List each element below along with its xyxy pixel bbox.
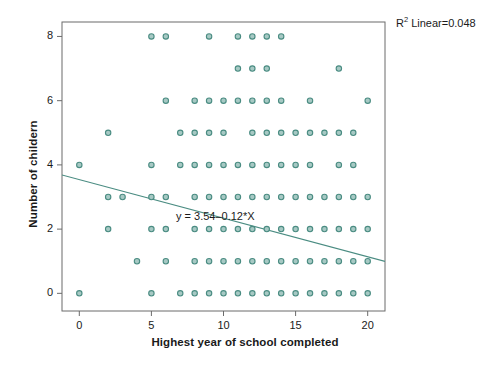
data-point [192,98,197,103]
data-point [293,162,298,167]
data-point [365,226,370,231]
x-axis-title: Highest year of school completed [0,336,490,348]
data-point [192,194,197,199]
regression-equation-label: y = 3.54–0.12*X [176,210,255,222]
data-point [365,98,370,103]
r-squared-annotation: R2 Linear=0.048 [396,17,476,29]
plot-canvas [0,0,490,366]
data-point [250,130,255,135]
data-point [192,130,197,135]
data-point [178,130,183,135]
data-point [365,291,370,296]
data-point [149,34,154,39]
data-points [77,34,371,296]
scatter-plot-figure: 05101520 02468 y = 3.54–0.12*X R2 Linear… [0,0,490,366]
data-point [307,130,312,135]
data-point [264,130,269,135]
data-point [250,34,255,39]
data-point [278,34,283,39]
data-point [293,130,298,135]
data-point [351,291,356,296]
x-tick-label: 0 [64,319,94,331]
data-point [192,226,197,231]
data-point [149,226,154,231]
data-point [264,194,269,199]
data-point [206,130,211,135]
data-point [307,259,312,264]
data-point [264,66,269,71]
data-point [250,98,255,103]
data-point [235,226,240,231]
data-point [250,291,255,296]
data-point [250,66,255,71]
data-point [77,291,82,296]
data-point [307,226,312,231]
data-point [250,259,255,264]
data-point [77,162,82,167]
data-point [192,259,197,264]
y-axis-title: Number of childern [27,79,39,269]
data-point [351,226,356,231]
data-point [336,66,341,71]
data-point [278,98,283,103]
data-point [163,34,168,39]
data-point [105,226,110,231]
data-point [163,98,168,103]
r-squared-letter: R [396,17,404,29]
x-tick-label: 10 [209,319,239,331]
data-point [307,194,312,199]
data-point [278,130,283,135]
x-tick-label: 20 [353,319,383,331]
r-squared-value: Linear=0.048 [408,17,476,29]
data-point [178,162,183,167]
data-point [206,226,211,231]
data-point [221,291,226,296]
data-point [105,130,110,135]
data-point [221,162,226,167]
data-point [264,34,269,39]
data-point [149,194,154,199]
data-point [322,130,327,135]
data-point [307,162,312,167]
data-point [336,130,341,135]
data-point [235,162,240,167]
data-point [235,194,240,199]
data-point [322,291,327,296]
data-point [250,226,255,231]
data-point [278,194,283,199]
data-point [221,226,226,231]
data-point [293,226,298,231]
data-point [192,162,197,167]
data-point [264,291,269,296]
data-point [235,291,240,296]
data-point [322,226,327,231]
data-point [264,226,269,231]
data-point [163,226,168,231]
data-point [351,194,356,199]
data-point [235,34,240,39]
x-tick-label: 5 [136,319,166,331]
data-point [250,162,255,167]
data-point [206,162,211,167]
data-point [120,194,125,199]
data-point [365,194,370,199]
data-point [351,259,356,264]
data-point [192,291,197,296]
data-point [206,194,211,199]
data-point [206,259,211,264]
data-point [278,259,283,264]
data-point [365,259,370,264]
data-point [178,291,183,296]
data-point [235,98,240,103]
data-point [336,194,341,199]
data-point [322,259,327,264]
data-point [351,130,356,135]
data-point [235,66,240,71]
data-point [250,194,255,199]
data-point [206,98,211,103]
data-point [221,98,226,103]
y-tick-label: 0 [31,286,53,298]
data-point [307,291,312,296]
data-point [336,291,341,296]
data-point [336,259,341,264]
